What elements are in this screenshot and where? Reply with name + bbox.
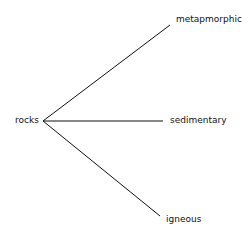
child-node-label-metamorphic: metapmorphic <box>176 15 242 24</box>
root-node-label: rocks <box>15 116 39 125</box>
child-node-label-igneous: igneous <box>166 215 201 224</box>
edge-rocks-igneous <box>43 121 160 216</box>
child-node-label-sedimentary: sedimentary <box>170 116 227 125</box>
edge-rocks-metamorphic <box>43 25 170 121</box>
